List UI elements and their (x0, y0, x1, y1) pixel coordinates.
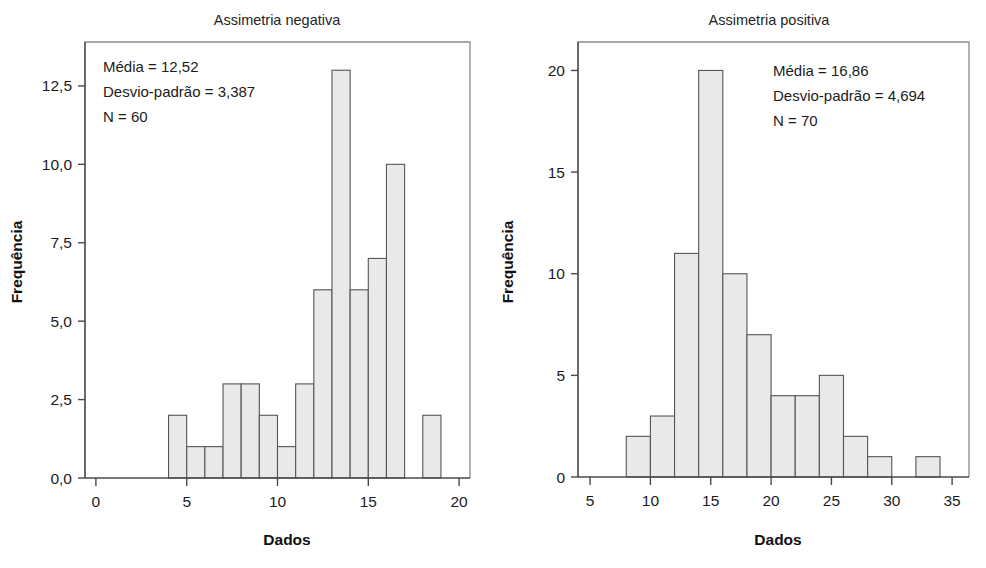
x-tick-label: 0 (92, 493, 101, 510)
histogram-bar (699, 70, 723, 477)
statistics-annotation: Média = 16,86Desvio-padrão = 4,694N = 70 (773, 62, 925, 129)
annotation-mean: Média = 12,52 (103, 58, 199, 75)
x-axis-title: Dados (754, 531, 801, 548)
histogram-bar (241, 384, 259, 478)
x-tick-label: 15 (360, 493, 377, 510)
histogram-bar (747, 335, 771, 477)
annotation-n: N = 70 (773, 112, 818, 129)
x-tick-label: 25 (823, 492, 840, 509)
x-axis: 05101520 (92, 478, 469, 510)
histogram-bar (350, 290, 368, 478)
histogram-bar (296, 384, 314, 478)
y-axis-title: Frequência (8, 220, 25, 303)
statistics-annotation: Média = 12,52Desvio-padrão = 3,387N = 60 (103, 58, 255, 125)
histogram-bar (626, 436, 650, 477)
histogram-bar (843, 436, 867, 477)
histogram-figure: Assimetria negativa0,02,55,07,510,012,50… (0, 0, 986, 568)
chart-panel-assimetria-negativa: Assimetria negativa0,02,55,07,510,012,50… (0, 0, 495, 568)
y-tick-label: 10 (548, 265, 566, 282)
histogram-bar (723, 274, 747, 477)
histogram-bar (368, 258, 386, 478)
annotation-n: N = 60 (103, 108, 148, 125)
annotation-sd: Desvio-padrão = 3,387 (103, 83, 255, 100)
y-axis: 05101520 (548, 62, 578, 486)
histogram-bar (187, 447, 205, 478)
x-tick-label: 5 (586, 492, 595, 509)
x-tick-label: 5 (182, 493, 191, 510)
histogram-bar (386, 164, 404, 478)
annotation-sd: Desvio-padrão = 4,694 (773, 87, 925, 104)
histogram-bar (169, 415, 187, 478)
y-tick-label: 2,5 (50, 391, 72, 408)
chart-title: Assimetria positiva (709, 12, 831, 28)
y-tick-label: 20 (548, 62, 566, 79)
histogram-bar (205, 447, 223, 478)
y-tick-label: 0,0 (50, 470, 72, 487)
annotation-mean: Média = 16,86 (773, 62, 869, 79)
histogram-bar (650, 416, 674, 477)
y-axis: 0,02,55,07,510,012,5 (42, 77, 85, 486)
x-tick-label: 10 (269, 493, 287, 510)
histogram-bar (259, 415, 277, 478)
histogram-bar (223, 384, 241, 478)
histogram-assimetria-positiva: Assimetria positiva051015205101520253035… (491, 0, 986, 568)
x-tick-label: 20 (762, 492, 780, 509)
chart-panel-assimetria-positiva: Assimetria positiva051015205101520253035… (491, 0, 986, 568)
chart-title: Assimetria negativa (214, 12, 341, 28)
y-tick-label: 5,0 (50, 313, 72, 330)
x-tick-label: 10 (642, 492, 660, 509)
histogram-assimetria-negativa: Assimetria negativa0,02,55,07,510,012,50… (0, 0, 495, 568)
y-tick-label: 12,5 (42, 77, 72, 94)
y-tick-label: 10,0 (42, 156, 73, 173)
histogram-bar (314, 290, 332, 478)
bars-group (169, 70, 441, 478)
x-tick-label: 15 (702, 492, 719, 509)
y-tick-label: 0 (556, 469, 565, 486)
histogram-bar (278, 447, 296, 478)
histogram-bar (332, 70, 350, 478)
y-tick-label: 5 (556, 367, 565, 384)
histogram-bar (868, 457, 892, 477)
y-tick-label: 7,5 (50, 234, 72, 251)
y-axis-title: Frequência (499, 220, 516, 303)
histogram-bar (916, 457, 940, 477)
x-axis-title: Dados (263, 531, 310, 548)
histogram-bar (795, 396, 819, 477)
x-axis: 5101520253035 (586, 477, 961, 509)
bars-group (626, 70, 940, 477)
x-tick-label: 35 (943, 492, 960, 509)
histogram-bar (675, 253, 699, 477)
histogram-bar (819, 375, 843, 477)
y-tick-label: 15 (548, 164, 565, 181)
histogram-bar (423, 415, 441, 478)
x-tick-label: 30 (883, 492, 901, 509)
x-tick-label: 20 (450, 493, 468, 510)
histogram-bar (771, 396, 795, 477)
